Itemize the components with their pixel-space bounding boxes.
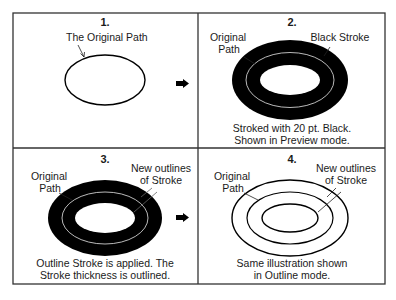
caption-line: in Outline mode. <box>254 269 330 281</box>
caption-line: Same illustration shown <box>237 257 348 269</box>
caption-line: Stroke thickness is outlined. <box>40 269 170 281</box>
caption-line: Shown in Preview mode. <box>234 134 350 146</box>
outline-label: New outlines <box>316 162 376 174</box>
original-path-ellipse <box>65 55 145 105</box>
panel-4-graphics <box>232 180 348 256</box>
arrow-right-icon <box>176 213 189 222</box>
path-label: Path <box>39 182 61 194</box>
path-label: Original <box>214 170 250 182</box>
panel-1-graphics <box>65 45 145 105</box>
diagram-graphics <box>0 0 396 300</box>
inner-outline <box>262 204 318 232</box>
ring-hole <box>75 203 135 233</box>
path-label: The Original Path <box>66 31 148 43</box>
path-label: Original <box>210 31 246 43</box>
pointer-line <box>244 193 258 200</box>
ring-hole <box>260 65 320 95</box>
panel-number: 4. <box>287 153 296 165</box>
panel-2-graphics <box>232 40 348 120</box>
caption-line: Stroked with 20 pt. Black. <box>233 122 351 134</box>
panel-number: 1. <box>100 16 109 28</box>
stroke-label: Black Stroke <box>311 31 370 43</box>
path-label: Original <box>31 170 67 182</box>
panel-number: 3. <box>100 153 109 165</box>
outline-label: New outlines <box>131 162 191 174</box>
arrow-right-icon <box>176 79 189 88</box>
path-label: Path <box>222 182 244 194</box>
pointer-line <box>78 45 84 57</box>
path-label: Path <box>218 43 240 55</box>
panel-3-graphics <box>48 180 162 256</box>
original-path-outline <box>247 192 333 244</box>
diagram: 1. The Original Path 2. Original Path Bl… <box>0 0 396 300</box>
outline-label: of Stroke <box>325 174 367 186</box>
outline-label: of Stroke <box>140 174 182 186</box>
caption-line: Outline Stroke is applied. The <box>36 257 174 269</box>
panel-number: 2. <box>287 16 296 28</box>
